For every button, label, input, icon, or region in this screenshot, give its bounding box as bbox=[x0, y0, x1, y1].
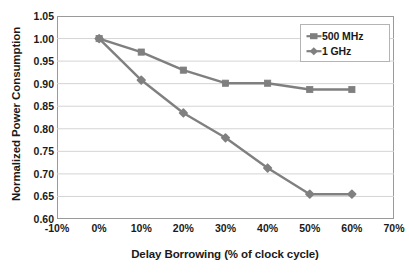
chart-legend: 500 MHz1 GHz bbox=[300, 24, 390, 62]
data-point-marker bbox=[307, 86, 313, 92]
data-point-marker bbox=[349, 86, 355, 92]
x-tick-label: 10% bbox=[118, 222, 164, 234]
x-tick-label: 20% bbox=[160, 222, 206, 234]
x-tick-label: 70% bbox=[371, 222, 409, 234]
square-marker-icon bbox=[306, 30, 322, 42]
data-point-marker bbox=[180, 67, 186, 73]
x-axis-title: Delay Borrowing (% of clock cycle) bbox=[56, 248, 394, 260]
x-tick-label: 30% bbox=[203, 222, 249, 234]
x-tick-label: 0% bbox=[76, 222, 122, 234]
legend-entry-2[interactable]: 1 GHz bbox=[306, 43, 385, 58]
x-tick-label: 60% bbox=[329, 222, 375, 234]
data-point-marker bbox=[222, 80, 228, 86]
legend-label: 1 GHz bbox=[322, 45, 351, 57]
diamond-marker-icon bbox=[306, 45, 322, 57]
x-tick-label: 50% bbox=[287, 222, 333, 234]
legend-label: 500 MHz bbox=[322, 30, 363, 42]
data-point-marker bbox=[265, 80, 271, 86]
chart-container: Normalized Power Consumption 0.600.650.7… bbox=[0, 0, 409, 275]
x-tick-label: 40% bbox=[245, 222, 291, 234]
data-point-marker bbox=[138, 49, 144, 55]
x-tick-label: -10% bbox=[34, 222, 80, 234]
legend-entry-1[interactable]: 500 MHz bbox=[306, 28, 385, 43]
